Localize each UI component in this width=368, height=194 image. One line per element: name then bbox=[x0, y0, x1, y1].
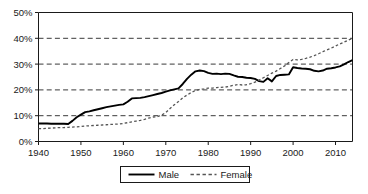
x-axis-tick-label: 1970 bbox=[155, 147, 176, 158]
y-axis-tick-label: 20% bbox=[13, 84, 33, 95]
legend-label-female: Female bbox=[221, 169, 253, 180]
chart-container: 0%10%20%30%40%50% 1940195019601970198019… bbox=[0, 0, 368, 194]
x-axis-tick-label: 2010 bbox=[325, 147, 346, 158]
chart-background bbox=[0, 0, 368, 194]
y-axis-tick-label: 50% bbox=[13, 7, 33, 18]
y-axis-tick-label: 40% bbox=[13, 33, 33, 44]
line-chart: 0%10%20%30%40%50% 1940195019601970198019… bbox=[0, 0, 368, 194]
x-axis-tick-label: 1980 bbox=[198, 147, 219, 158]
y-axis-tick-label: 30% bbox=[13, 59, 33, 70]
chart-legend: MaleFemale bbox=[121, 167, 253, 183]
x-axis-tick-label: 1940 bbox=[28, 147, 49, 158]
legend-label-male: Male bbox=[159, 169, 180, 180]
y-axis-tick-label: 10% bbox=[13, 110, 33, 121]
x-axis-tick-label: 2000 bbox=[283, 147, 304, 158]
x-axis-tick-label: 1990 bbox=[240, 147, 261, 158]
x-axis-tick-label: 1950 bbox=[70, 147, 91, 158]
y-axis-tick-label: 0% bbox=[19, 136, 33, 147]
x-axis-tick-label: 1960 bbox=[113, 147, 134, 158]
